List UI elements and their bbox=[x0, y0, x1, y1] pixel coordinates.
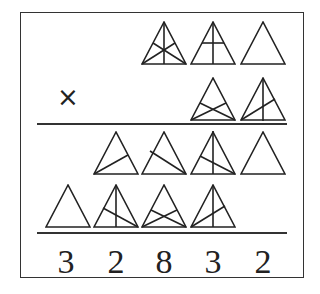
triangle-median-midline-icon bbox=[190, 21, 236, 65]
triangle-plain-icon bbox=[240, 131, 286, 175]
multiply-sign: × bbox=[57, 84, 79, 110]
triangle-all-medians-icon bbox=[141, 21, 187, 65]
triangle-median-left-cevian-icon bbox=[190, 184, 236, 228]
divider-line bbox=[37, 123, 287, 125]
triangle-median-right-cevian-icon bbox=[93, 184, 139, 228]
triangle-crossing-cevians-icon bbox=[141, 184, 187, 228]
result-digit: 3 bbox=[46, 245, 86, 279]
triangle-plain-icon bbox=[45, 184, 91, 228]
triangle-left-cevian-icon bbox=[93, 131, 139, 175]
triangle-median-left-cevian-icon bbox=[240, 77, 286, 121]
triangle-plain-icon bbox=[240, 21, 286, 65]
triangle-right-cevian-icon bbox=[141, 131, 187, 175]
divider-line bbox=[37, 232, 287, 234]
result-digit: 3 bbox=[193, 245, 233, 279]
result-digit: 2 bbox=[96, 245, 136, 279]
triangle-crossing-cevians-icon bbox=[190, 77, 236, 121]
result-digit: 8 bbox=[144, 245, 184, 279]
triangle-median-right-cevian-icon bbox=[190, 131, 236, 175]
result-digit: 2 bbox=[243, 245, 283, 279]
